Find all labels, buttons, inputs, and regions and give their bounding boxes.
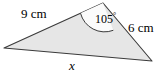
base-label-x: x <box>69 59 75 72</box>
triangle-figure: 9 cm 6 cm 105° x <box>0 0 161 74</box>
angle-label-105: 105° <box>95 12 116 25</box>
angle-value: 105 <box>95 12 113 26</box>
side-label-6cm: 6 cm <box>128 21 154 34</box>
side-label-9cm: 9 cm <box>21 7 47 20</box>
degree-symbol-icon: ° <box>113 11 116 20</box>
